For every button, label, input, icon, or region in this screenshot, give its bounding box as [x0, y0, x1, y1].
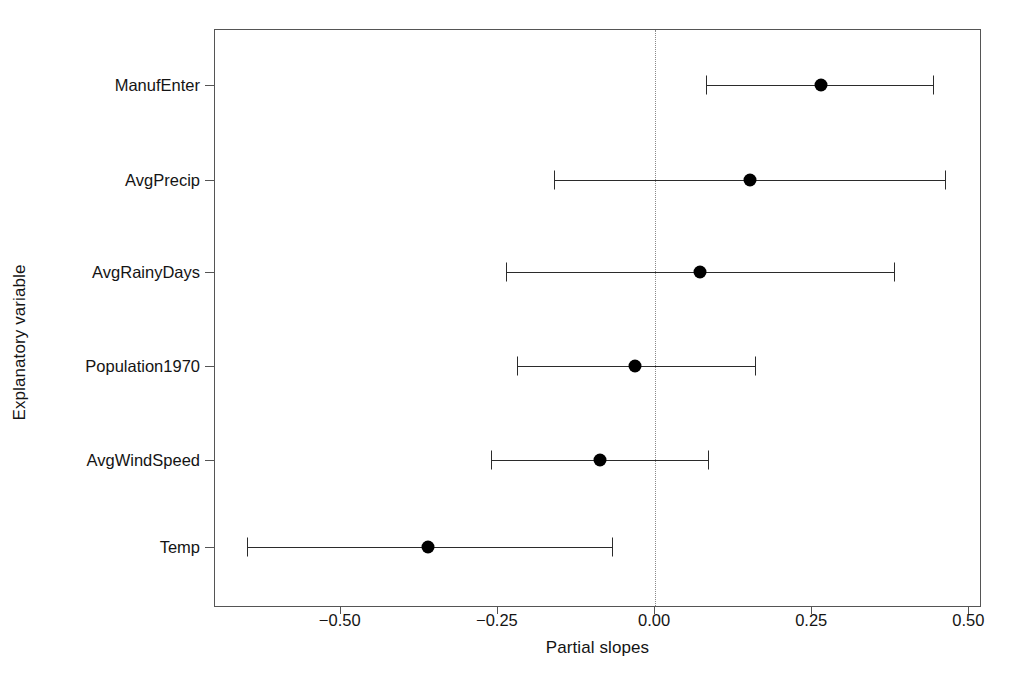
interval-upper-cap	[894, 263, 895, 282]
interval-lower-cap	[706, 76, 707, 95]
estimate-point	[744, 174, 757, 187]
x-axis-tick-label: −0.50	[280, 611, 400, 630]
y-axis-tick-mark	[205, 85, 214, 86]
plot-area	[214, 29, 981, 607]
x-axis-tick-label: 0.50	[908, 611, 1013, 630]
y-axis-category-label: AvgRainyDays	[0, 263, 200, 282]
interval-lower-cap	[506, 263, 507, 282]
y-axis-category-label: AvgPrecip	[0, 171, 200, 190]
y-axis-tick-mark	[205, 180, 214, 181]
interval-lower-cap	[517, 357, 518, 376]
interval-lower-cap	[247, 538, 248, 557]
y-axis-category-label: AvgWindSpeed	[0, 451, 200, 470]
page-bottom-margin	[0, 668, 1013, 685]
x-axis-tick-label: −0.25	[437, 611, 557, 630]
zero-reference-line	[655, 30, 656, 606]
estimate-point	[421, 541, 434, 554]
interval-upper-cap	[945, 171, 946, 190]
interval-upper-cap	[708, 451, 709, 470]
estimate-point	[814, 79, 827, 92]
interval-lower-cap	[491, 451, 492, 470]
y-axis-tick-mark	[205, 272, 214, 273]
x-axis-tick-label: 0.00	[594, 611, 714, 630]
y-axis-tick-mark	[205, 460, 214, 461]
interval-upper-cap	[612, 538, 613, 557]
y-axis-category-label: Population1970	[0, 357, 200, 376]
y-axis-tick-mark	[205, 547, 214, 548]
partial-slopes-plot: Explanatory variable Partial slopes −0.5…	[0, 0, 1013, 685]
estimate-point	[629, 360, 642, 373]
interval-upper-cap	[933, 76, 934, 95]
y-axis-category-label: Temp	[0, 538, 200, 557]
interval-lower-cap	[554, 171, 555, 190]
y-axis-title: Explanatory variable	[0, 0, 40, 685]
y-axis-category-label: ManufEnter	[0, 76, 200, 95]
estimate-point	[594, 454, 607, 467]
x-axis-tick-label: 0.25	[751, 611, 871, 630]
x-axis-title: Partial slopes	[214, 638, 981, 658]
interval-upper-cap	[755, 357, 756, 376]
estimate-point	[693, 266, 706, 279]
y-axis-tick-mark	[205, 366, 214, 367]
